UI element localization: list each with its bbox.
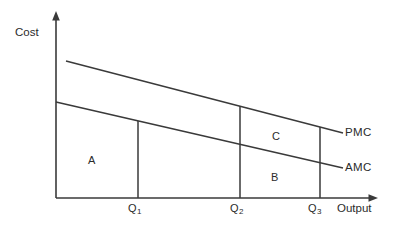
- x-tick-label-q1: Q1: [128, 203, 141, 216]
- x-axis-arrowhead: [369, 194, 379, 202]
- x-axis: [56, 194, 378, 202]
- y-axis-label: Cost: [15, 27, 39, 39]
- x-tick-subscript-q2: 2: [239, 207, 244, 216]
- x-tick-letter-q3: Q: [308, 202, 317, 214]
- pmc-curve-label: PMC: [345, 127, 372, 139]
- pmc-curve: [66, 61, 343, 133]
- x-axis-label: Output: [337, 203, 372, 215]
- diagram-canvas: [0, 0, 396, 227]
- x-tick-letter-q1: Q: [128, 202, 137, 214]
- x-tick-subscript-q3: 3: [317, 207, 322, 216]
- x-tick-subscript-q1: 1: [137, 207, 142, 216]
- amc-curve: [56, 102, 343, 168]
- region-label-c: C: [272, 131, 280, 142]
- y-axis-arrowhead: [52, 11, 60, 21]
- amc-curve-label: AMC: [345, 162, 372, 174]
- y-axis: [52, 11, 60, 198]
- x-tick-label-q3: Q3: [308, 203, 321, 216]
- region-label-a: A: [88, 155, 95, 166]
- x-tick-label-q2: Q2: [230, 203, 243, 216]
- region-label-b: B: [271, 172, 278, 183]
- cost-output-diagram: Cost Output PMC AMC A B C Q1 Q2 Q3: [0, 0, 396, 227]
- x-tick-letter-q2: Q: [230, 202, 239, 214]
